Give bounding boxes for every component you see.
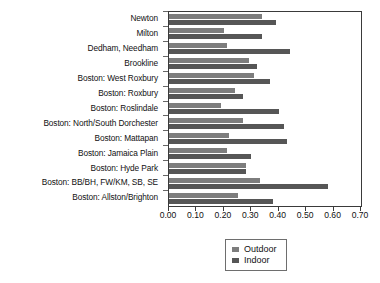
- legend-item-indoor: Indoor: [232, 255, 277, 266]
- category-axis: NewtonMiltonDedham, NeedhamBrooklineBost…: [0, 11, 163, 205]
- bar-outdoor: [169, 88, 235, 93]
- bar-indoor: [169, 34, 262, 39]
- bar-indoor: [169, 79, 270, 84]
- bar-row: [169, 131, 361, 146]
- outdoor-swatch-icon: [232, 247, 239, 252]
- bar-indoor: [169, 199, 273, 204]
- bar-row: [169, 161, 361, 176]
- bar-outdoor: [169, 148, 227, 153]
- bar-group: [169, 12, 361, 206]
- bar-indoor: [169, 139, 287, 144]
- category-label: Brookline: [0, 56, 163, 71]
- chart-legend: Outdoor Indoor: [225, 239, 287, 271]
- plot-area: [168, 11, 362, 207]
- bar-row: [169, 72, 361, 87]
- indoor-swatch-icon: [232, 258, 239, 263]
- value-tick-label: 0.70: [352, 211, 369, 220]
- bar-indoor: [169, 169, 246, 174]
- category-label: Boston: Roxbury: [0, 86, 163, 101]
- legend-label-indoor: Indoor: [244, 256, 270, 265]
- bar-indoor: [169, 184, 328, 189]
- bar-row: [169, 191, 361, 206]
- category-label: Boston: Mattapan: [0, 130, 163, 145]
- bar-indoor: [169, 20, 276, 25]
- bar-outdoor: [169, 178, 260, 183]
- bar-outdoor: [169, 58, 249, 63]
- bar-row: [169, 27, 361, 42]
- bar-outdoor: [169, 163, 246, 168]
- value-tick-label: 0.30: [242, 211, 259, 220]
- category-label: Newton: [0, 11, 163, 26]
- bar-row: [169, 102, 361, 117]
- bar-outdoor: [169, 73, 254, 78]
- bar-row: [169, 87, 361, 102]
- bar-row: [169, 146, 361, 161]
- category-label: Boston: BB/BH, FW/KM, SB, SE: [0, 175, 163, 190]
- category-label: Boston: Jamaica Plain: [0, 145, 163, 160]
- value-axis-labels: 0.000.100.200.300.400.500.600.70: [0, 211, 380, 225]
- category-label: Boston: Hyde Park: [0, 160, 163, 175]
- value-tick-label: 0.50: [297, 211, 314, 220]
- bar-indoor: [169, 154, 251, 159]
- category-label: Boston: West Roxbury: [0, 71, 163, 86]
- category-label: Dedham, Needham: [0, 41, 163, 56]
- value-tick-label: 0.20: [214, 211, 231, 220]
- bar-indoor: [169, 64, 257, 69]
- bar-outdoor: [169, 133, 229, 138]
- value-tick-label: 0.40: [269, 211, 286, 220]
- value-tick-label: 0.60: [324, 211, 341, 220]
- bar-row: [169, 12, 361, 27]
- category-label: Boston: Allston/Brighton: [0, 190, 163, 205]
- bar-outdoor: [169, 28, 224, 33]
- bar-outdoor: [169, 193, 238, 198]
- bar-indoor: [169, 94, 243, 99]
- category-label: Milton: [0, 26, 163, 41]
- bar-row: [169, 57, 361, 72]
- bar-outdoor: [169, 43, 227, 48]
- legend-item-outdoor: Outdoor: [232, 244, 277, 255]
- bar-chart: NewtonMiltonDedham, NeedhamBrooklineBost…: [0, 0, 380, 283]
- bar-outdoor: [169, 103, 221, 108]
- bar-indoor: [169, 124, 284, 129]
- bar-indoor: [169, 109, 279, 114]
- bar-row: [169, 116, 361, 131]
- category-label: Boston: Roslindale: [0, 101, 163, 116]
- value-tick-label: 0.10: [187, 211, 204, 220]
- bar-indoor: [169, 49, 290, 54]
- category-label: Boston: North/South Dorchester: [0, 115, 163, 130]
- bar-outdoor: [169, 118, 243, 123]
- bar-outdoor: [169, 14, 262, 19]
- value-tick-label: 0.00: [160, 211, 177, 220]
- legend-label-outdoor: Outdoor: [244, 245, 277, 254]
- bar-row: [169, 176, 361, 191]
- bar-row: [169, 42, 361, 57]
